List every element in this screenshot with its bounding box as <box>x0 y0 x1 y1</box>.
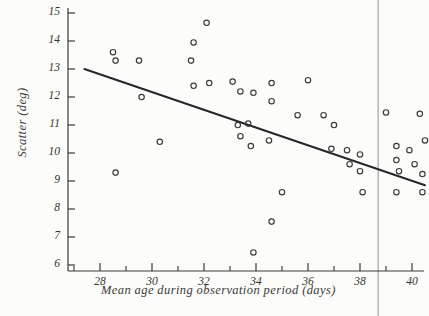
y-tick-label: 13 <box>38 61 60 73</box>
data-point <box>139 94 144 99</box>
x-tick-label: 28 <box>87 275 113 287</box>
data-point <box>238 134 243 139</box>
data-point <box>230 79 235 84</box>
x-tick-label: 38 <box>347 275 373 287</box>
x-tick-label: 32 <box>191 275 217 287</box>
y-tick-label: 6 <box>38 257 60 269</box>
data-point <box>295 113 300 118</box>
data-point <box>136 58 141 63</box>
data-point <box>383 110 388 115</box>
data-point <box>251 250 256 255</box>
data-point <box>344 148 349 153</box>
data-point <box>357 169 362 174</box>
data-point <box>347 162 352 167</box>
data-point <box>269 80 274 85</box>
data-point <box>412 162 417 167</box>
y-tick-label: 8 <box>38 201 60 213</box>
data-point <box>269 219 274 224</box>
y-tick-label: 7 <box>38 229 60 241</box>
data-point <box>191 83 196 88</box>
data-point <box>417 111 422 116</box>
x-tick-label: 34 <box>243 275 269 287</box>
axis-ticks <box>68 13 412 271</box>
data-point <box>394 190 399 195</box>
data-point <box>305 78 310 83</box>
data-point <box>279 190 284 195</box>
data-point <box>113 58 118 63</box>
y-tick-label: 15 <box>38 5 60 17</box>
data-point <box>360 190 365 195</box>
data-point <box>113 170 118 175</box>
scatter-plot-figure: Scatter (deg) Mean age during observatio… <box>0 0 429 316</box>
data-point <box>235 122 240 127</box>
axes-lines <box>68 8 424 271</box>
data-point <box>191 40 196 45</box>
x-tick-label: 40 <box>399 275 425 287</box>
data-point <box>269 99 274 104</box>
data-point <box>204 20 209 25</box>
data-point <box>407 148 412 153</box>
data-point <box>110 50 115 55</box>
data-point <box>396 169 401 174</box>
data-point <box>331 122 336 127</box>
y-axis-label: Scatter (deg) <box>15 79 30 167</box>
data-point <box>420 190 425 195</box>
data-point <box>329 146 334 151</box>
x-tick-label: 30 <box>139 275 165 287</box>
data-point <box>420 171 425 176</box>
y-tick-label: 14 <box>38 33 60 45</box>
data-point <box>394 143 399 148</box>
data-point <box>157 139 162 144</box>
data-point <box>251 90 256 95</box>
y-tick-label: 11 <box>38 117 60 129</box>
data-point <box>422 138 427 143</box>
y-tick-label: 10 <box>38 145 60 157</box>
regression-line <box>84 69 425 185</box>
y-tick-label: 9 <box>38 173 60 185</box>
data-point <box>238 89 243 94</box>
data-point <box>188 58 193 63</box>
x-tick-label: 36 <box>295 275 321 287</box>
data-point <box>266 138 271 143</box>
data-point <box>248 143 253 148</box>
plot-canvas <box>0 0 429 316</box>
data-point <box>207 80 212 85</box>
data-point <box>321 113 326 118</box>
data-point <box>357 152 362 157</box>
data-point <box>394 157 399 162</box>
data-points <box>110 20 427 255</box>
y-tick-label: 12 <box>38 89 60 101</box>
